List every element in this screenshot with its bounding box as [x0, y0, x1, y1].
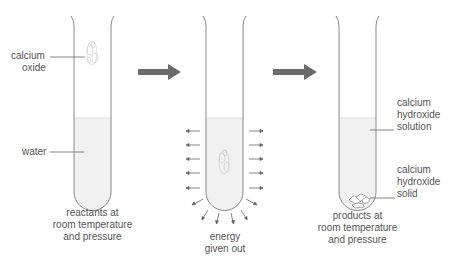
caption-products: products at room temperature and pressur… — [310, 210, 405, 246]
caption-reactants: reactants at room temperature and pressu… — [45, 207, 140, 243]
test-tube-products — [336, 16, 395, 211]
label-calcium-hydroxide-solution: calcium hydroxide solution — [397, 97, 440, 133]
reaction-arrow-1 — [138, 64, 181, 80]
label-water: water — [22, 146, 46, 158]
reaction-arrow-2 — [273, 64, 317, 80]
label-calcium-oxide: calcium oxide — [11, 50, 46, 74]
caption-energy-given-out: energy given out — [190, 231, 260, 255]
label-calcium-hydroxide-solid: calcium hydroxide solid — [397, 164, 440, 200]
calcium-oxide-powder — [87, 41, 98, 65]
test-tube-reactants — [50, 16, 114, 211]
test-tube-reaction — [186, 16, 263, 224]
